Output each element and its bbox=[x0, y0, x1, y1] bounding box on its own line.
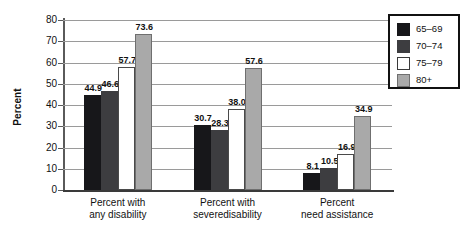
category-label-line: Percent bbox=[282, 197, 392, 209]
bar bbox=[101, 91, 118, 190]
bar bbox=[337, 154, 354, 190]
legend-item: 65–69 bbox=[397, 21, 458, 37]
legend-swatch-icon bbox=[397, 23, 410, 36]
category-label: Percentneed assistance bbox=[282, 197, 392, 221]
y-axis-tick-label: 80 bbox=[31, 15, 57, 25]
y-axis-tick-label: 40 bbox=[31, 100, 57, 110]
category-label: Percent withany disability bbox=[63, 197, 173, 221]
category-label-line: Percent with bbox=[63, 197, 173, 209]
legend-swatch-icon bbox=[397, 40, 410, 53]
category-label-line: Percent with bbox=[173, 197, 283, 209]
y-axis-tick bbox=[58, 84, 63, 85]
bar-value-label: 73.6 bbox=[133, 23, 156, 32]
gridline bbox=[63, 63, 392, 64]
y-axis-tick bbox=[58, 190, 63, 191]
plot-area: 44.946.657.773.630.728.338.057.68.110.51… bbox=[63, 20, 392, 190]
bar bbox=[354, 116, 371, 190]
bar bbox=[194, 125, 211, 190]
bar bbox=[118, 67, 135, 190]
legend-swatch-icon bbox=[397, 74, 410, 87]
legend-item: 70–74 bbox=[397, 38, 458, 54]
legend-item: 75–79 bbox=[397, 55, 458, 71]
y-axis-tick-label: 20 bbox=[31, 143, 57, 153]
legend-label: 75–79 bbox=[416, 58, 442, 68]
y-axis-tick-label: 0 bbox=[31, 185, 57, 195]
x-axis-line bbox=[63, 190, 394, 192]
category-label-line: severedisability bbox=[173, 209, 283, 221]
bar-chart: Percent 80706050403020100 44.946.657.773… bbox=[0, 0, 465, 235]
category-label: Percent withseveredisability bbox=[173, 197, 283, 221]
y-axis-tick-label: 50 bbox=[31, 79, 57, 89]
y-axis-title-text: Percent bbox=[12, 77, 23, 137]
y-axis-tick bbox=[58, 20, 63, 21]
y-axis-tick-labels: 80706050403020100 bbox=[29, 0, 57, 190]
y-axis-tick bbox=[58, 63, 63, 64]
bar bbox=[245, 68, 262, 190]
y-axis-tick-label: 60 bbox=[31, 58, 57, 68]
legend-swatch-icon bbox=[397, 57, 410, 70]
legend-label: 65–69 bbox=[416, 24, 442, 34]
y-axis-tick-label: 30 bbox=[31, 121, 57, 131]
bar bbox=[303, 173, 320, 190]
bar bbox=[135, 34, 152, 190]
gridline bbox=[63, 41, 392, 42]
y-axis-tick bbox=[58, 41, 63, 42]
gridline bbox=[63, 20, 392, 21]
bar-value-label: 57.6 bbox=[243, 57, 266, 66]
y-axis-tick bbox=[58, 169, 63, 170]
category-label-line: need assistance bbox=[282, 209, 392, 221]
legend-label: 70–74 bbox=[416, 41, 442, 51]
category-label-line: any disability bbox=[63, 209, 173, 221]
y-axis-tick-label: 70 bbox=[31, 36, 57, 46]
y-axis-tick bbox=[58, 126, 63, 127]
y-axis-tick bbox=[58, 105, 63, 106]
legend: 65–69 70–74 75–79 80+ bbox=[388, 14, 460, 89]
bar-value-label: 34.9 bbox=[352, 105, 375, 114]
y-axis-tick bbox=[58, 148, 63, 149]
bar bbox=[228, 109, 245, 190]
bar bbox=[320, 168, 337, 190]
y-axis-tick-label: 10 bbox=[31, 164, 57, 174]
legend-label: 80+ bbox=[416, 75, 432, 85]
legend-item: 80+ bbox=[397, 72, 458, 88]
bar bbox=[211, 130, 228, 190]
bar bbox=[84, 95, 101, 190]
